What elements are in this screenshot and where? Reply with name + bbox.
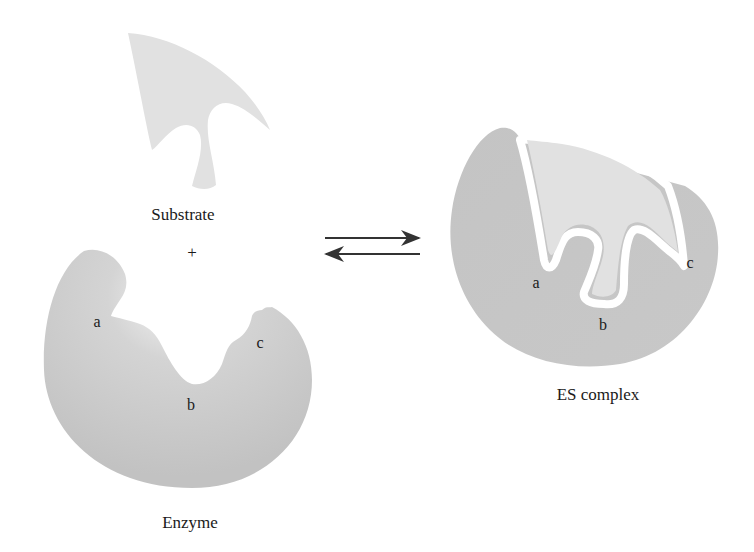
enzyme-label: Enzyme <box>162 513 218 532</box>
enzyme-site-c: c <box>256 334 263 351</box>
es-complex-label: ES complex <box>557 385 640 404</box>
enzyme-site-a: a <box>93 313 100 330</box>
plus-sign: + <box>187 243 197 262</box>
es-site-c: c <box>686 254 693 271</box>
es-site-a: a <box>532 274 539 291</box>
equilibrium-arrows <box>325 238 420 254</box>
substrate-shape <box>128 33 270 189</box>
enzyme-substrate-diagram: Substrate + a b c Enzyme a b c ES comple… <box>0 0 754 552</box>
es-site-b: b <box>599 316 607 333</box>
enzyme-shape <box>44 250 312 488</box>
enzyme-site-b: b <box>187 396 195 413</box>
substrate-label: Substrate <box>151 205 214 224</box>
